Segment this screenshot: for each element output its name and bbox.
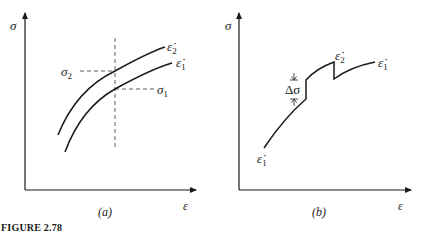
mid-rate-label: ε̇2 bbox=[335, 48, 345, 65]
curve-rate-1 bbox=[65, 63, 172, 152]
delta-sigma-label: Δσ bbox=[285, 82, 300, 97]
end-rate-label: ε̇1 bbox=[378, 55, 388, 72]
panel-a: σ ε σ2 σ1 ε̇2 ε̇1 (a) bbox=[10, 13, 196, 219]
delta-sigma-top-arrow-icon bbox=[292, 73, 297, 80]
stress-strain-curve bbox=[264, 62, 375, 148]
figure-caption: FIGURE 2.78 bbox=[1, 222, 62, 233]
y-axis-label: σ bbox=[10, 18, 17, 33]
curve-rate-1-label: ε̇1 bbox=[176, 55, 186, 72]
delta-sigma-bottom-arrow-icon bbox=[292, 99, 297, 106]
figure-canvas: σ ε σ2 σ1 ε̇2 ε̇1 (a) σ ε Δσ ε̇1 ε̇2 ε̇1… bbox=[0, 0, 423, 235]
panel-b-label: (b) bbox=[312, 205, 326, 219]
y-axis-label: σ bbox=[225, 18, 232, 33]
panel-a-label: (a) bbox=[98, 205, 112, 219]
sigma-1-label: σ1 bbox=[157, 82, 168, 99]
x-axis-label: ε bbox=[398, 199, 403, 213]
sigma-2-label: σ2 bbox=[61, 64, 72, 81]
panel-b: σ ε Δσ ε̇1 ε̇2 ε̇1 (b) bbox=[225, 13, 411, 219]
x-axis-label: ε bbox=[183, 199, 188, 213]
curve-rate-2-label: ε̇2 bbox=[167, 39, 177, 56]
start-rate-label: ε̇1 bbox=[257, 151, 267, 168]
